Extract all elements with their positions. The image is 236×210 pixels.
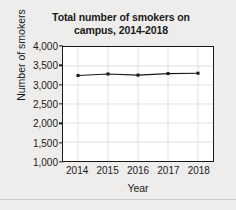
- y-tick-label: 1,500: [18, 137, 58, 148]
- y-tick-label: 1,000: [18, 157, 58, 168]
- data-point-marker: [76, 74, 79, 77]
- chart-title: Total number of smokers on campus, 2014-…: [18, 11, 224, 36]
- y-tick-label: 2,500: [18, 99, 58, 110]
- x-tick-label: 2018: [179, 165, 219, 176]
- y-tick-label: 3,500: [18, 60, 58, 71]
- footer-divider: [0, 199, 236, 200]
- y-tick-label: 3,000: [18, 79, 58, 90]
- chart-title-line-2: campus, 2014-2018: [18, 24, 224, 37]
- chart-figure: Total number of smokers on campus, 2014-…: [0, 0, 236, 210]
- plot-area: [62, 46, 214, 162]
- chart-title-line-1: Total number of smokers on: [18, 11, 224, 24]
- data-point-marker: [196, 72, 199, 75]
- chart-canvas: [63, 47, 213, 161]
- y-tick-label: 2,000: [18, 118, 58, 129]
- x-axis-tick-labels: 20142015201620172018: [62, 165, 214, 179]
- data-point-marker: [136, 74, 139, 77]
- y-tick-label: 4,000: [18, 41, 58, 52]
- data-point-marker: [106, 72, 109, 75]
- data-point-marker: [166, 72, 169, 75]
- x-axis-title: Year: [62, 182, 214, 194]
- y-axis-tick-labels: 1,0001,5002,0002,5003,0003,5004,000: [18, 46, 58, 162]
